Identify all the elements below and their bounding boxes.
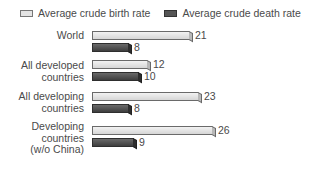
legend: Average crude birth rate Average crude d… — [20, 6, 315, 20]
birth-value-label: 12 — [153, 59, 165, 70]
death-value-label: 9 — [139, 137, 145, 148]
birth-value-label: 23 — [204, 91, 216, 102]
category-label-line: All developed — [0, 60, 84, 72]
death-rate-bar — [92, 104, 129, 113]
category-label-line: All developing — [0, 91, 84, 103]
death-rate-bar — [92, 43, 129, 52]
category-label: All developingcountries — [0, 91, 84, 114]
birth-rate-bar — [92, 126, 213, 135]
category-label-line: Developing — [0, 121, 84, 133]
death-value-label: 8 — [134, 42, 140, 53]
category-label: All developedcountries — [0, 60, 84, 83]
category-label-line: countries — [0, 72, 84, 84]
death-value-label: 10 — [144, 71, 156, 82]
death-rate-bar — [92, 138, 134, 147]
birth-value-label: 26 — [218, 125, 230, 136]
category-label-line: (w/o China) — [0, 144, 84, 156]
birth-value-label: 21 — [195, 30, 207, 41]
birth-rate-bar — [92, 92, 199, 101]
legend-item-birth: Average crude birth rate — [20, 7, 150, 19]
birth-swatch-icon — [20, 10, 33, 17]
category-label: Developingcountries(w/o China) — [0, 121, 84, 156]
category-label-line: World — [0, 30, 84, 42]
death-swatch-icon — [164, 10, 177, 17]
death-rate-bar — [92, 72, 139, 81]
birth-rate-bar — [92, 31, 190, 40]
category-label: World — [0, 30, 84, 42]
death-value-label: 8 — [134, 103, 140, 114]
birth-rate-bar — [92, 60, 148, 69]
legend-birth-label: Average crude birth rate — [38, 7, 150, 19]
category-label-line: countries — [0, 103, 84, 115]
legend-item-death: Average crude death rate — [164, 7, 300, 19]
legend-death-label: Average crude death rate — [182, 7, 300, 19]
